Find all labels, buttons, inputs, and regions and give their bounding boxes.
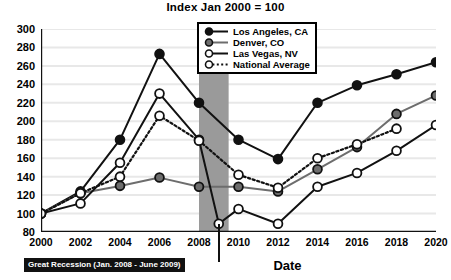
- data-point: [234, 205, 243, 214]
- data-point: [432, 91, 436, 100]
- legend-item: Las Vegas, NV: [203, 48, 310, 59]
- x-tick-label: 2004: [100, 236, 140, 248]
- x-tick-label: 2000: [21, 236, 61, 248]
- data-point: [274, 183, 283, 192]
- x-axis-tick-labels: 2000200220042006200820102012201420162018…: [0, 236, 451, 252]
- y-tick-label: 300: [7, 24, 35, 34]
- data-point: [313, 98, 322, 107]
- data-point: [76, 199, 85, 208]
- legend-item: National Average: [203, 59, 310, 70]
- y-tick-label: 120: [7, 190, 35, 200]
- data-point: [432, 121, 436, 130]
- data-point: [234, 135, 243, 144]
- data-point: [116, 135, 125, 144]
- data-point: [274, 155, 283, 164]
- data-point: [155, 50, 164, 59]
- data-point: [353, 140, 362, 149]
- data-point: [195, 182, 204, 191]
- y-tick-label: 160: [7, 153, 35, 163]
- data-point: [195, 98, 204, 107]
- legend-label: Las Vegas, NV: [233, 48, 298, 59]
- legend-marker-icon: [203, 59, 229, 70]
- data-point: [155, 173, 164, 182]
- data-point: [392, 109, 401, 118]
- data-point: [392, 146, 401, 155]
- y-tick-label: 220: [7, 98, 35, 108]
- data-point: [274, 219, 283, 228]
- data-point: [313, 182, 322, 191]
- x-tick-label: 2014: [298, 236, 338, 248]
- data-point: [155, 89, 164, 98]
- x-tick-label: 2002: [61, 236, 101, 248]
- data-point: [116, 158, 125, 167]
- y-tick-label: 200: [7, 116, 35, 126]
- legend-label: Denver, CO: [233, 37, 284, 48]
- y-tick-label: 280: [7, 42, 35, 52]
- x-tick-label: 2010: [219, 236, 259, 248]
- data-point: [234, 170, 243, 179]
- y-tick-label: 100: [7, 209, 35, 219]
- data-point: [353, 81, 362, 90]
- data-point: [234, 182, 243, 191]
- data-point: [76, 189, 85, 198]
- y-tick-label: 240: [7, 79, 35, 89]
- legend-marker-icon: [203, 37, 229, 48]
- y-tick-label: 180: [7, 135, 35, 145]
- data-point: [313, 165, 322, 174]
- callout-leader-line: [218, 224, 220, 262]
- x-tick-label: 2006: [140, 236, 180, 248]
- legend-label: Los Angeles, CA: [233, 26, 308, 37]
- chart-legend: Los Angeles, CADenver, COLas Vegas, NVNa…: [197, 22, 317, 74]
- data-point: [432, 58, 436, 67]
- x-tick-label: 2020: [416, 236, 451, 248]
- data-point: [313, 154, 322, 163]
- data-point: [155, 111, 164, 120]
- x-tick-label: 2008: [179, 236, 219, 248]
- legend-marker-icon: [203, 48, 229, 59]
- data-point: [116, 172, 125, 181]
- data-point: [195, 136, 204, 145]
- x-tick-label: 2016: [337, 236, 377, 248]
- x-axis-title-text: Date: [273, 258, 301, 273]
- y-tick-label: 260: [7, 61, 35, 71]
- data-point: [116, 181, 125, 190]
- legend-label: National Average: [233, 59, 310, 70]
- chart-title: Index Jan 2000 = 100: [0, 1, 451, 13]
- legend-item: Los Angeles, CA: [203, 26, 310, 37]
- data-point: [353, 169, 362, 178]
- great-recession-callout: Great Recession (Jan. 2008 - June 2009): [24, 258, 185, 272]
- data-point: [392, 70, 401, 79]
- y-tick-label: 140: [7, 172, 35, 182]
- chart-container: Index Jan 2000 = 100 8010012014016018020…: [0, 0, 451, 280]
- x-tick-label: 2018: [377, 236, 417, 248]
- legend-item: Denver, CO: [203, 37, 310, 48]
- legend-marker-icon: [203, 26, 229, 37]
- x-tick-label: 2012: [258, 236, 298, 248]
- data-point: [392, 124, 401, 133]
